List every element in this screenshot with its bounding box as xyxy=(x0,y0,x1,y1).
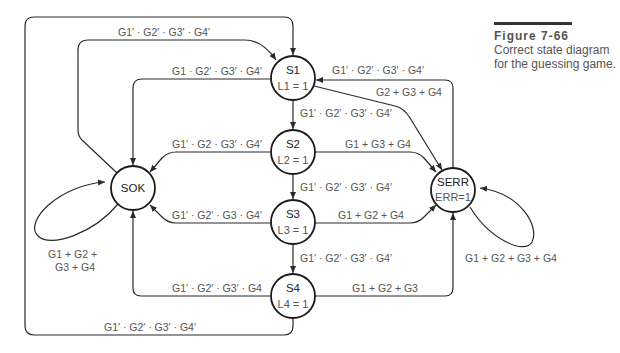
edge-sok-to-s1 xyxy=(78,40,276,173)
label-s3-to-sok: G1′ · G2′ · G3 · G4′ xyxy=(172,209,262,221)
figure-caption: Figure 7-66 Correct state diagram for th… xyxy=(494,22,618,71)
state-sok: SOK xyxy=(111,166,155,210)
label-s1-to-s2: G1′ · G2′ · G3′ · G4′ xyxy=(300,107,392,119)
figure-description: Correct state diagram for the guessing g… xyxy=(494,43,618,71)
state-s2-name: S2 xyxy=(286,138,300,150)
label-s4-to-serr: G1 + G2 + G3 xyxy=(352,282,418,294)
state-s2: S2 L2 = 1 xyxy=(271,130,315,174)
edge-s2-to-serr xyxy=(315,152,436,172)
state-serr-name: SERR xyxy=(437,176,469,188)
state-s1-output: L1 = 1 xyxy=(278,80,309,92)
state-serr-output: ERR=1 xyxy=(435,191,471,203)
edge-serr-self-loop xyxy=(470,188,534,247)
label-s1-to-sok: G1 · G2′ · G3′ · G4′ xyxy=(172,65,262,77)
state-s4: S4 L4 = 1 xyxy=(271,274,315,318)
state-s4-output: L4 = 1 xyxy=(278,298,309,310)
label-s2-to-serr: G1 + G3 + G4 xyxy=(345,138,411,150)
state-s3-output: L3 = 1 xyxy=(278,224,309,236)
label-serr-self: G1 + G2 + G3 + G4 xyxy=(465,252,557,264)
label-s3-to-s4: G1′ · G2′ · G3′ · G4′ xyxy=(300,252,392,264)
label-serr-to-s1: G1′ · G2′ · G3′ · G4′ xyxy=(332,64,424,76)
state-serr: SERR ERR=1 xyxy=(431,168,475,212)
state-s1: S1 L1 = 1 xyxy=(271,56,315,100)
figure-number: Figure 7-66 xyxy=(494,29,618,43)
caption-rule xyxy=(494,22,572,25)
label-sok-self-line2: G3 + G4 xyxy=(55,261,95,273)
label-sok-self-line1: G1 + G2 + xyxy=(48,248,97,260)
state-sok-name: SOK xyxy=(121,182,146,194)
label-s2-to-sok: G1′ · G2 · G3′ · G4′ xyxy=(172,138,262,150)
state-s2-output: L2 = 1 xyxy=(278,154,309,166)
label-sok-to-s1: G1′ · G2′ · G3′ · G4′ xyxy=(118,26,210,38)
edge-sok-self-loop xyxy=(35,182,118,240)
state-s3: S3 L3 = 1 xyxy=(271,200,315,244)
label-s3-to-serr: G1 + G2 + G4 xyxy=(338,209,404,221)
label-s1-to-serr: G2 + G3 + G4 xyxy=(376,86,442,98)
label-s4-to-sok: G1′ · G2′ · G3′ · G4 xyxy=(172,282,262,294)
label-s4-to-s1: G1′ · G2′ · G3′ · G4′ xyxy=(104,321,196,333)
label-s2-to-s3: G1′ · G2′ · G3′ · G4′ xyxy=(300,181,392,193)
edge-s2-to-sok xyxy=(150,152,271,172)
state-s3-name: S3 xyxy=(286,208,300,220)
state-s1-name: S1 xyxy=(286,64,300,76)
state-s4-name: S4 xyxy=(286,282,301,294)
